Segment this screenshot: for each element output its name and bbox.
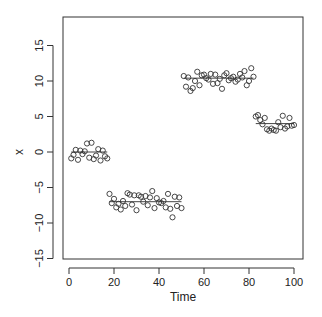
segment-mean-lines xyxy=(71,78,294,202)
data-points xyxy=(69,66,297,220)
data-point xyxy=(242,68,247,73)
x-tick-label: 60 xyxy=(198,276,210,288)
data-point xyxy=(192,78,197,83)
y-tick-label: −10 xyxy=(33,214,45,233)
y-tick-label: −15 xyxy=(33,249,45,268)
data-point xyxy=(145,203,150,208)
data-point xyxy=(134,208,139,213)
y-tick-label: 5 xyxy=(33,113,45,119)
data-point xyxy=(260,122,265,127)
data-point xyxy=(287,115,292,120)
x-tick-label: 100 xyxy=(285,276,303,288)
y-axis: −15−10−5051015 xyxy=(33,39,53,267)
data-point xyxy=(262,115,267,120)
y-tick-label: 0 xyxy=(33,149,45,155)
y-tick-label: −5 xyxy=(33,181,45,194)
y-axis-label: x xyxy=(12,149,26,155)
data-point xyxy=(150,188,155,193)
data-point xyxy=(129,202,134,207)
data-point xyxy=(107,191,112,196)
x-tick-label: 40 xyxy=(153,276,165,288)
x-tick-label: 0 xyxy=(66,276,72,288)
y-tick-label: 10 xyxy=(33,75,45,87)
scatter-chart: −15−10−5051015 020406080100 Time x xyxy=(0,0,322,317)
y-tick-label: 15 xyxy=(33,39,45,51)
x-tick-label: 20 xyxy=(108,276,120,288)
data-point xyxy=(170,215,175,220)
data-point xyxy=(183,84,188,89)
data-point xyxy=(165,191,170,196)
data-point xyxy=(111,196,116,201)
data-point xyxy=(217,76,222,81)
data-point xyxy=(249,66,254,71)
data-point xyxy=(75,157,80,162)
data-point xyxy=(118,207,123,212)
data-point xyxy=(219,86,224,91)
data-point xyxy=(246,78,251,83)
x-axis-label: Time xyxy=(170,290,197,304)
data-point xyxy=(197,83,202,88)
plot-frame xyxy=(63,17,303,259)
data-point xyxy=(152,205,157,210)
x-tick-label: 80 xyxy=(243,276,255,288)
x-axis: 020406080100 xyxy=(66,268,303,288)
data-point xyxy=(123,203,128,208)
data-point xyxy=(98,158,103,163)
data-point xyxy=(280,113,285,118)
data-point xyxy=(120,198,125,203)
data-point xyxy=(195,69,200,74)
data-point xyxy=(179,205,184,210)
